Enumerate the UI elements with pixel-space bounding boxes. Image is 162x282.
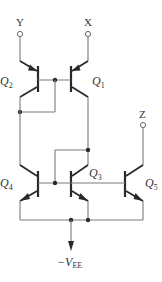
- terminal-z-label: Z: [139, 108, 146, 120]
- emitter-arrow-icon: [134, 193, 144, 201]
- transistor-q5: [125, 165, 143, 201]
- junction-dot: [86, 218, 90, 222]
- q4-label: Q4: [0, 176, 13, 192]
- transistor-q1: [71, 61, 88, 97]
- junction-dot: [53, 181, 57, 185]
- circuit-diagram: Y X Q2 Q1 Z Q4: [0, 0, 162, 282]
- transistor-q2: [20, 61, 38, 97]
- terminal-y-node: [17, 31, 22, 36]
- q5-label: Q5: [145, 176, 158, 192]
- emitter-arrow-icon: [79, 193, 89, 201]
- terminal-x-node: [85, 31, 90, 36]
- emitter-arrow-icon: [20, 193, 30, 201]
- q3-label: Q3: [89, 166, 102, 182]
- junction-dot: [86, 148, 90, 152]
- supply-arrow-icon: [68, 241, 74, 251]
- q2-label: Q2: [0, 74, 13, 90]
- terminal-z-node: [140, 122, 145, 127]
- transistor-q4: [20, 165, 38, 201]
- supply-label: −VEE: [57, 255, 82, 270]
- terminal-x-label: X: [84, 16, 92, 28]
- terminal-y-label: Y: [16, 16, 24, 28]
- q1-label: Q1: [92, 74, 105, 90]
